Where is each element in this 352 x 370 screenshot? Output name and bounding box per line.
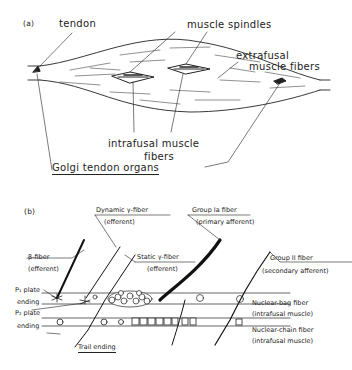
- dynamic-gamma-label: Dynamic γ-fiber: [96, 207, 148, 214]
- p2-plate-label-line1: P₂ plate: [15, 310, 40, 317]
- group-ia-sub: (primary afferent): [196, 219, 254, 226]
- dynamic-gamma-sub: (efferent): [104, 219, 135, 226]
- panel-b-label: (b): [24, 208, 35, 216]
- muscle-spindles-label: muscle spindles: [187, 20, 272, 30]
- nuclear-bag-sub: (intrafusal muscle): [252, 311, 313, 318]
- intrafusal-label-line1: intrafusal muscle: [108, 139, 199, 149]
- p1-plate-label-line1: P₁ plate: [15, 287, 40, 294]
- muscle-spindle-diagram: (a) tendon muscle spindles extrafusal mu…: [0, 0, 352, 370]
- nuclear-chain-label: Nuclear-chain fiber: [252, 327, 314, 334]
- static-gamma-label: Static γ-fiber: [137, 254, 179, 261]
- p1-plate-label-line2: ending: [17, 299, 39, 306]
- group-ii-label: Group II fiber: [270, 255, 313, 262]
- beta-fiber-sub: (efferent): [28, 266, 59, 273]
- panel-a-label: (a): [23, 20, 34, 28]
- tendon-left-end: [33, 66, 40, 72]
- spindle-right: [168, 64, 210, 74]
- nuclear-chain: [57, 318, 242, 325]
- intrafusal-label-line2: fibers: [144, 152, 174, 162]
- tendon-label: tendon: [59, 19, 96, 29]
- group-ia-label: Group Ia fiber: [192, 207, 237, 214]
- nuclear-bag-label: Nuclear-bag fiber: [252, 300, 308, 307]
- extrafusal-label-line2: muscle fibers: [249, 62, 320, 72]
- golgi-tendon-organs-label: Golgi tendon organs: [52, 163, 159, 175]
- spindle-left: [112, 72, 154, 83]
- static-gamma-sub: (efferent): [147, 266, 178, 273]
- beta-fiber-label: β-fiber: [28, 254, 49, 261]
- trail-ending-label: Trail ending: [78, 344, 116, 353]
- p2-plate-label-line2: ending: [17, 323, 39, 330]
- extrafusal-label-line1: extrafusal: [236, 51, 289, 61]
- nuclear-chain-sub: (intrafusal muscle): [252, 338, 313, 345]
- group-ii-sub: (secondary afferent): [262, 268, 328, 275]
